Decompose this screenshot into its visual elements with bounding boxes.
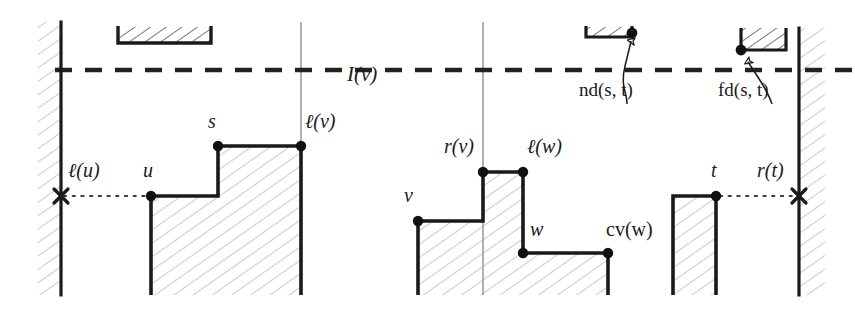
label-s: s [208, 111, 216, 131]
label-cv-w: cv(w) [606, 219, 653, 239]
vertex-dot-l-v [296, 141, 306, 151]
vertex-dot-r-v [478, 167, 488, 177]
label-nd-s-t: nd(s, t) [579, 80, 633, 99]
vertex-dot-v [413, 216, 423, 226]
label-v: v [404, 185, 413, 205]
figure-canvas: ℓ(u) u s ℓ(v) I(v) v r(v) ℓ(w) w cv(w) t… [0, 0, 855, 309]
label-l-u: ℓ(u) [68, 160, 100, 180]
vertex-dot-nd-tip [627, 28, 638, 39]
vertex-dot-l-w [518, 167, 528, 177]
label-r-v: r(v) [444, 136, 474, 156]
vertex-dot-fd-tip [736, 45, 747, 56]
hatch-regions [38, 22, 825, 295]
label-w: w [530, 219, 543, 239]
label-I-v: I(v) [347, 64, 377, 85]
label-fd-s-t: fd(s, t) [718, 80, 769, 99]
label-r-t: r(t) [757, 160, 784, 180]
label-l-w: ℓ(w) [527, 136, 562, 156]
vertex-dot-cv-w [603, 248, 613, 258]
vertex-dot-t [711, 191, 721, 201]
hatch-fd-box [742, 28, 785, 49]
vertex-dot-s [213, 141, 223, 151]
diagram-svg [0, 0, 855, 309]
hatch-staircase-u-s-v [151, 146, 301, 295]
label-l-v: ℓ(v) [305, 111, 336, 131]
hatch-staircase-v-w [418, 172, 608, 295]
hatch-t-block [673, 196, 716, 295]
hatch-left-wall [38, 22, 61, 295]
label-t: t [711, 160, 717, 180]
hatch-top-left-box [118, 27, 210, 43]
vertex-dot-u [146, 191, 156, 201]
vertex-dot-w [518, 248, 528, 258]
hatch-nd-box [586, 27, 631, 36]
label-u: u [143, 160, 153, 180]
